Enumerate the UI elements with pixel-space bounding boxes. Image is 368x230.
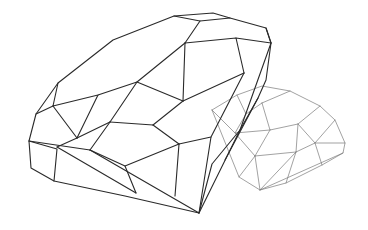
small-diamond-facet-edge [315,143,322,165]
big-diamond-facet-edge [90,122,110,150]
big-diamond-facet-edge [236,38,244,73]
small-diamond-facet-edge [255,130,270,156]
small-diamond-facet-edge [262,91,290,103]
big-diamond-facet-edge [185,38,271,43]
small-diamond-facet-edge [260,153,343,190]
big-diamond-facet-edge [90,144,179,166]
small-diamond-outline [212,86,345,190]
small-diamond-facet-edge [255,156,260,190]
small-diamond-facet-edge [296,124,298,152]
big-diamond-facet-edge [110,122,153,125]
big-diamond-facet-edge [153,125,179,144]
small-diamond-facet-edge [315,120,335,143]
big-diamond-facet-edge [266,28,271,43]
big-diamond-outline [29,13,271,213]
big-diamond-facet-edge [77,122,110,138]
small-diamond [212,86,345,190]
big-diamond-facet-edge [137,82,183,101]
big-diamond-facet-edge [185,21,200,43]
big-diamond-facet-edge [183,73,244,101]
small-diamond-facet-edge [286,152,296,183]
big-diamond-facet-edge [183,43,185,101]
big-diamond-facet-edge [125,166,136,193]
big-diamond-facet-edge [174,16,230,21]
big-diamond-facet-edge [53,43,185,106]
big-diamond-facet-edge [90,150,199,213]
big-diamond-facet-edge [179,73,244,144]
small-diamond-facet-edge [262,103,320,130]
small-diamond-facet-edge [260,152,296,190]
big-diamond-facet-edge [225,98,258,160]
big-diamond-facet-edge [110,82,137,122]
big-diamond-facet-edge [53,106,77,138]
big-diamond-facet-edge [153,101,183,125]
small-diamond-facet-edge [255,143,315,156]
small-diamond-facet-edge [239,156,255,177]
big-diamond-facet-edge [77,95,98,138]
big-diamond [29,13,271,213]
diamond-drawing [0,0,368,230]
big-diamond-facet-edge [175,144,179,196]
